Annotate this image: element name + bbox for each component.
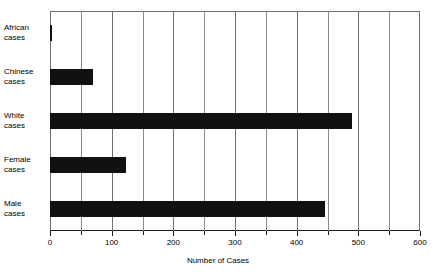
category-label-line1: Female <box>4 155 31 164</box>
category-label-line1: White <box>4 111 24 120</box>
x-tick-label-200: 200 <box>153 238 193 248</box>
x-tick-0 <box>50 231 51 236</box>
category-label-line2: cases <box>4 165 48 175</box>
bar-white-cases <box>50 113 352 129</box>
bar-chinese-cases <box>50 69 93 85</box>
bar-chart: AfricancasesChinesecasesWhitecasesFemale… <box>0 0 436 278</box>
category-label-line1: Male <box>4 199 21 208</box>
category-label-line2: cases <box>4 209 48 219</box>
x-tick-500 <box>358 231 359 236</box>
category-label-white-cases: Whitecases <box>4 111 48 131</box>
x-tick-minor-50 <box>81 231 82 235</box>
x-tick-label-0: 0 <box>30 238 70 248</box>
x-tick-minor-150 <box>143 231 144 235</box>
x-tick-label-500: 500 <box>338 238 378 248</box>
category-label-chinese-cases: Chinesecases <box>4 67 48 87</box>
x-tick-label-600: 600 <box>400 238 436 248</box>
x-tick-label-300: 300 <box>215 238 255 248</box>
x-tick-label-100: 100 <box>92 238 132 248</box>
category-label-african-cases: Africancases <box>4 23 48 43</box>
bar-male-cases <box>50 201 325 217</box>
gridline-500 <box>358 11 359 231</box>
x-tick-100 <box>112 231 113 236</box>
x-tick-label-400: 400 <box>277 238 317 248</box>
category-label-line2: cases <box>4 33 48 43</box>
x-tick-200 <box>173 231 174 236</box>
x-tick-minor-550 <box>389 231 390 235</box>
category-label-male-cases: Malecases <box>4 199 48 219</box>
x-tick-400 <box>297 231 298 236</box>
category-label-line1: African <box>4 23 29 32</box>
x-tick-minor-350 <box>266 231 267 235</box>
category-label-line2: cases <box>4 77 48 87</box>
x-tick-600 <box>420 231 421 236</box>
category-label-line2: cases <box>4 121 48 131</box>
x-tick-minor-450 <box>328 231 329 235</box>
bar-female-cases <box>50 157 126 173</box>
x-tick-minor-250 <box>204 231 205 235</box>
category-label-line1: Chinese <box>4 67 33 76</box>
bar-african-cases <box>50 25 52 41</box>
gridline-550 <box>389 11 390 231</box>
x-tick-300 <box>235 231 236 236</box>
category-label-female-cases: Femalecases <box>4 155 48 175</box>
x-axis-title: Number of Cases <box>0 256 436 265</box>
